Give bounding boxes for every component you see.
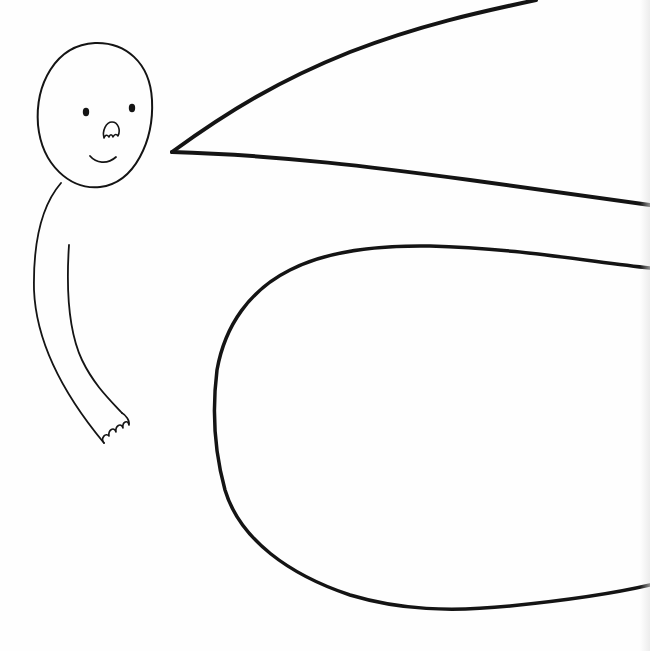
line-drawing — [0, 0, 650, 651]
illustration-canvas — [0, 0, 650, 651]
arm-inner — [68, 245, 122, 413]
figure-head — [38, 43, 152, 187]
nose — [103, 122, 119, 138]
wedge-shape — [172, 0, 650, 205]
right-eye — [129, 104, 135, 112]
rounded-blob — [214, 246, 650, 609]
hand-fingers — [103, 413, 129, 443]
page-edge-shadow — [640, 0, 650, 651]
wedge-top-edge — [172, 0, 536, 152]
wedge-bottom-edge — [172, 152, 650, 205]
left-eye — [83, 108, 89, 116]
figure-arm — [34, 183, 129, 443]
blob-outline — [214, 246, 650, 609]
head-outline — [38, 43, 152, 187]
mouth — [90, 156, 116, 162]
